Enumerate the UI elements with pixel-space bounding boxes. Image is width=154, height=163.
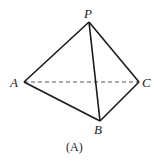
vertex-label-p: P <box>83 6 92 21</box>
edge-ab <box>24 82 100 121</box>
edge-pa <box>24 22 89 82</box>
vertex-label-a: A <box>9 75 18 90</box>
tetrahedron-diagram: P A C B (A) <box>0 0 154 163</box>
edge-pc <box>89 22 139 82</box>
vertex-label-b: B <box>94 122 102 137</box>
figure-caption: (A) <box>66 140 83 154</box>
edge-bc <box>100 82 139 121</box>
edge-pb <box>89 22 100 121</box>
vertex-label-c: C <box>142 75 151 90</box>
